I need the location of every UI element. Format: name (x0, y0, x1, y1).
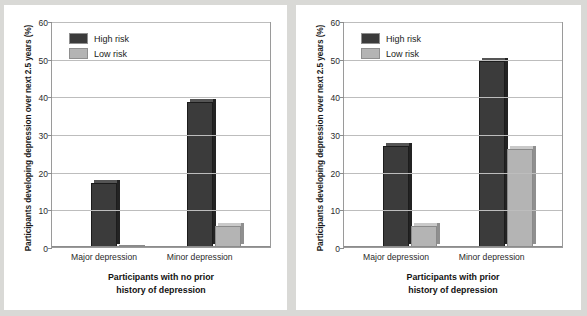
gridline-40 (52, 97, 270, 98)
bar-side-shade (437, 223, 440, 244)
gridline-50 (52, 60, 270, 61)
y-tick-label-30: 30 (331, 131, 340, 141)
legend-right: High risk Low risk (358, 30, 426, 62)
gridline-20 (344, 173, 562, 174)
x-category-label-minor-depression: Minor depression (167, 252, 233, 262)
y-axis-title-left: Participants developing depression over … (20, 13, 36, 263)
y-tick-label-20: 20 (331, 169, 340, 179)
bar-major-depression-low-risk[interactable] (411, 226, 437, 247)
x-axis-baseline-right (344, 246, 562, 247)
bar-minor-depression-low-risk[interactable] (215, 226, 241, 247)
gridline-30 (52, 135, 270, 136)
y-tick-label-50: 50 (331, 56, 340, 66)
y-tick-mark-40 (48, 97, 52, 98)
y-tick-mark-20 (48, 173, 52, 174)
bar-face (187, 102, 213, 247)
y-tick-mark-0 (340, 248, 344, 249)
bar-face (215, 226, 241, 247)
legend-item-high-risk[interactable]: High risk (69, 32, 129, 45)
y-tick-label-30: 30 (39, 131, 48, 141)
bar-major-depression-high-risk[interactable] (91, 183, 117, 247)
plot-area-right: High risk Low risk 0102030405060 (343, 22, 563, 248)
bar-face (411, 226, 437, 247)
legend-swatch-low-risk-icon (69, 48, 88, 59)
legend-item-high-risk[interactable]: High risk (361, 32, 421, 45)
y-tick-label-0: 0 (43, 244, 48, 254)
gridline-50 (344, 60, 562, 61)
gridline-10 (52, 210, 270, 211)
y-tick-mark-50 (48, 60, 52, 61)
y-tick-mark-60 (340, 22, 344, 23)
chart-panel-left: Participants developing depression over … (4, 5, 287, 310)
legend-label-high-risk: High risk (386, 34, 421, 44)
legend-item-low-risk[interactable]: Low risk (69, 47, 129, 60)
y-tick-mark-30 (340, 135, 344, 136)
bar-major-depression-high-risk[interactable] (383, 146, 409, 247)
panel-caption-left-line2: history of depression (51, 284, 271, 297)
y-tick-label-0: 0 (335, 244, 340, 254)
gridline-10 (344, 210, 562, 211)
legend-swatch-low-risk-icon (361, 48, 380, 59)
y-tick-label-60: 60 (39, 18, 48, 28)
panel-caption-right-line1: Participants with prior (343, 271, 563, 284)
y-tick-mark-0 (48, 248, 52, 249)
bar-face (479, 61, 505, 247)
bar-minor-depression-high-risk[interactable] (187, 102, 213, 247)
y-tick-label-40: 40 (331, 93, 340, 103)
y-tick-label-10: 10 (331, 206, 340, 216)
y-tick-label-10: 10 (39, 206, 48, 216)
y-tick-label-60: 60 (331, 18, 340, 28)
bar-side-shade (533, 146, 536, 244)
panel-caption-left: Participants with no prior history of de… (51, 271, 271, 296)
gridline-60 (344, 22, 562, 23)
chart-panel-right: Participants developing depression over … (296, 5, 581, 310)
bar-face (383, 146, 409, 247)
x-category-label-minor-depression: Minor depression (459, 252, 525, 262)
gridline-30 (344, 135, 562, 136)
y-axis-title-right: Participants developing depression over … (312, 13, 328, 263)
gridline-20 (52, 173, 270, 174)
y-tick-mark-40 (340, 97, 344, 98)
bar-minor-depression-high-risk[interactable] (479, 61, 505, 247)
plot-area-left: High risk Low risk 0102030405060 (51, 22, 271, 248)
legend-label-high-risk: High risk (94, 34, 129, 44)
x-axis-baseline-left (52, 246, 270, 247)
legend-item-low-risk[interactable]: Low risk (361, 47, 421, 60)
legend-left: High risk Low risk (66, 30, 134, 62)
x-category-label-major-depression: Major depression (363, 252, 429, 262)
bar-face (507, 149, 533, 247)
legend-label-low-risk: Low risk (94, 49, 127, 59)
panel-caption-right: Participants with prior history of depre… (343, 271, 563, 296)
y-tick-label-50: 50 (39, 56, 48, 66)
y-tick-label-40: 40 (39, 93, 48, 103)
legend-label-low-risk: Low risk (386, 49, 419, 59)
bar-face (91, 183, 117, 247)
y-tick-mark-10 (48, 210, 52, 211)
panel-caption-left-line1: Participants with no prior (51, 271, 271, 284)
x-axis-category-labels-right: Major depressionMinor depression (343, 252, 563, 266)
y-tick-mark-10 (340, 210, 344, 211)
bar-minor-depression-low-risk[interactable] (507, 149, 533, 247)
y-tick-mark-60 (48, 22, 52, 23)
y-tick-mark-30 (48, 135, 52, 136)
bar-side-shade (117, 180, 120, 244)
x-category-label-major-depression: Major depression (71, 252, 137, 262)
y-tick-mark-50 (340, 60, 344, 61)
y-tick-mark-20 (340, 173, 344, 174)
gridline-40 (344, 97, 562, 98)
legend-swatch-high-risk-icon (69, 33, 88, 44)
gridline-60 (52, 22, 270, 23)
x-axis-category-labels-left: Major depressionMinor depression (51, 252, 271, 266)
panel-caption-right-line2: history of depression (343, 284, 563, 297)
bar-side-shade (213, 99, 216, 244)
figure-root: Participants developing depression over … (0, 0, 587, 316)
legend-swatch-high-risk-icon (361, 33, 380, 44)
y-tick-label-20: 20 (39, 169, 48, 179)
bar-side-shade (241, 223, 244, 244)
